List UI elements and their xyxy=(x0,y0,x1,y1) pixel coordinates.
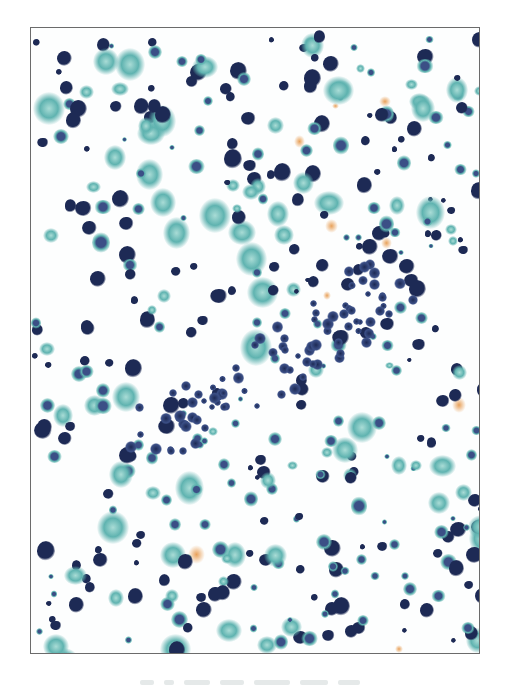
cell xyxy=(389,196,406,214)
cell xyxy=(307,122,321,135)
cell xyxy=(224,149,242,169)
cell xyxy=(320,211,328,219)
cell xyxy=(108,589,124,606)
cell xyxy=(398,250,403,255)
cell xyxy=(65,422,75,431)
cell xyxy=(336,349,345,358)
cell xyxy=(111,82,129,97)
cell xyxy=(167,447,175,455)
cell xyxy=(356,243,362,250)
cell xyxy=(96,383,109,398)
cell xyxy=(264,544,287,567)
cell xyxy=(382,519,388,524)
cell xyxy=(150,443,162,455)
cell xyxy=(39,342,56,356)
cell xyxy=(178,554,193,569)
cell xyxy=(237,72,251,86)
cell xyxy=(311,594,318,601)
cell xyxy=(227,138,238,150)
cell xyxy=(46,601,52,606)
cell xyxy=(125,441,137,453)
cell xyxy=(314,191,345,216)
cell xyxy=(183,623,193,633)
cell xyxy=(250,624,258,633)
cell xyxy=(48,574,53,579)
cell xyxy=(159,574,170,587)
cell xyxy=(31,317,41,329)
cell xyxy=(132,203,145,216)
cell xyxy=(148,85,155,92)
cell xyxy=(220,389,228,397)
cell xyxy=(160,413,172,425)
cell xyxy=(160,597,176,611)
cell xyxy=(64,566,87,584)
cell xyxy=(277,390,286,399)
cell xyxy=(267,117,283,134)
cell xyxy=(431,230,442,242)
cell xyxy=(355,328,361,334)
cell xyxy=(252,267,262,278)
cell xyxy=(344,266,354,276)
cell xyxy=(279,81,289,91)
cell xyxy=(362,239,377,255)
cell xyxy=(357,177,372,193)
cell xyxy=(201,437,209,446)
cell xyxy=(431,590,446,603)
cell xyxy=(471,182,480,199)
cell xyxy=(252,147,264,161)
cell xyxy=(474,86,480,95)
cell xyxy=(286,366,294,374)
cell xyxy=(163,217,190,249)
cell xyxy=(208,587,222,603)
cell xyxy=(333,597,350,616)
cell xyxy=(136,168,146,179)
cell xyxy=(94,398,112,414)
cell xyxy=(196,602,212,618)
cell xyxy=(69,597,84,613)
cell xyxy=(227,478,236,488)
cell xyxy=(137,431,144,438)
cell xyxy=(296,400,307,410)
cell xyxy=(93,553,108,567)
cell xyxy=(104,145,126,169)
cell xyxy=(391,456,407,475)
cell xyxy=(79,365,95,378)
cell xyxy=(374,169,381,175)
cell xyxy=(289,244,300,255)
cell xyxy=(195,54,206,66)
cell xyxy=(241,112,257,125)
cell xyxy=(181,381,191,391)
cell xyxy=(209,404,215,410)
cell xyxy=(370,572,380,580)
cell xyxy=(37,138,48,147)
cell xyxy=(351,496,367,515)
cell xyxy=(477,382,480,398)
cell xyxy=(410,460,422,471)
cell xyxy=(391,365,403,375)
cell xyxy=(36,628,43,635)
cell xyxy=(93,48,120,75)
cell xyxy=(466,449,477,460)
cell xyxy=(310,339,322,351)
cell xyxy=(323,56,339,72)
cell xyxy=(420,603,434,619)
cell xyxy=(238,396,243,402)
cell xyxy=(33,39,40,46)
cell xyxy=(180,421,191,432)
cell xyxy=(310,300,317,307)
cell xyxy=(125,269,136,280)
cell xyxy=(258,193,268,205)
cell xyxy=(412,339,426,350)
cell xyxy=(458,237,463,242)
cell xyxy=(281,346,289,354)
cell xyxy=(287,461,298,470)
cell xyxy=(199,519,211,530)
cell xyxy=(425,36,434,44)
cell xyxy=(75,201,93,216)
cell xyxy=(201,398,207,404)
cell xyxy=(196,593,208,602)
cell xyxy=(154,321,166,333)
cell xyxy=(267,201,289,227)
cell xyxy=(150,188,176,217)
cell xyxy=(416,59,434,73)
